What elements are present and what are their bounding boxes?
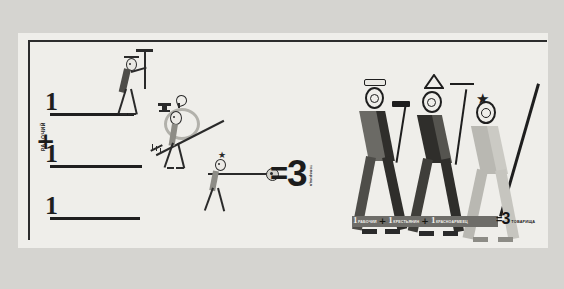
eq-term-soldier: 1 КРАСНОАРМЕЕЦ [430, 216, 469, 227]
soldier-eye [218, 163, 220, 165]
eq-separator-1: + [378, 217, 388, 226]
soldier-leg-back [217, 188, 226, 212]
peasant-eye [173, 116, 175, 118]
comrade-soldier-leg-right [495, 169, 519, 240]
scan-margin-left [0, 0, 18, 289]
rake-tine-2 [156, 146, 157, 151]
equation-result-number: 3 [501, 213, 510, 225]
peasant-foot-back [167, 167, 174, 169]
result-three-glyph: 3 [287, 159, 308, 189]
eq-separator-2: + [420, 217, 430, 226]
comrade-peasant-foot-left [419, 231, 434, 236]
hammer-head-icon [136, 49, 153, 52]
eq-term-soldier-number: 1 [431, 216, 436, 225]
comrade-worker-foot-left [362, 229, 377, 234]
soldier-head [215, 159, 226, 171]
comrade-soldier-eye [481, 108, 491, 118]
peasant-pointed-hat-icon [424, 75, 442, 88]
comrade-worker-hammer-handle-icon [395, 105, 406, 163]
eq-term-peasant: 1 КРЕСТЬЯНИН [387, 216, 420, 227]
equation-result-label: ТОВАРИЩА [511, 220, 535, 224]
comrade-peasant-eye [427, 98, 436, 107]
eq-term-worker-number: 1 [353, 216, 358, 225]
scan-margin-bottom [0, 248, 564, 289]
worker-foot-front [128, 113, 136, 115]
comrade-soldier-foot-right [498, 237, 513, 242]
equation-bar: 1 РАБОЧИЙ + 1 КРЕСТЬЯНИН + 1 КРАСНОАРМЕЕ… [352, 216, 498, 227]
eq-term-peasant-label: КРЕСТЬЯНИН [393, 221, 419, 225]
comrade-peasant-foot-right [443, 231, 458, 236]
soldier-leg-front [204, 188, 214, 211]
worker-eye [129, 63, 131, 65]
eq-term-worker-label: РАБОЧИЙ [358, 221, 377, 225]
eq-term-soldier-label: КРАСНОАРМЕЕЦ [436, 221, 468, 225]
peasant-foot-front [176, 167, 184, 169]
poster-root: РАБОЧИЙ 1 [0, 0, 564, 289]
equation-result-group: = 3 ТОВАРИЩА [496, 213, 535, 225]
frame-rule-left [28, 40, 30, 240]
rake-tine-1 [152, 144, 153, 149]
result-caption: товарища [309, 165, 314, 186]
eq-term-peasant-number: 1 [388, 216, 393, 225]
comrade-worker-hammer-head-icon [392, 101, 410, 107]
comrade-soldier-foot-left [473, 237, 488, 242]
comrade-soldier-leg-left [463, 169, 488, 240]
worker-flat-cap-icon [364, 79, 386, 86]
sickle-emblem-icon [174, 93, 188, 107]
comrade-worker-eye [370, 94, 379, 103]
equals-glyph: = [270, 159, 288, 188]
comrade-worker-foot-right [385, 229, 400, 234]
worker-leg-back [130, 89, 138, 115]
flat-cap-icon [124, 56, 139, 58]
center-equals-three: = 3 товарища [270, 159, 314, 189]
numeral-one-worker: 1 [45, 89, 58, 115]
scan-margin-top [0, 0, 564, 33]
eq-term-worker: 1 РАБОЧИЙ [352, 216, 378, 227]
peasant-leg-back [177, 143, 186, 169]
worker-foot-back [120, 113, 127, 115]
rake-tine-3 [160, 148, 161, 153]
frame-rule-top [28, 40, 547, 42]
baseline-bar-peasant [50, 165, 142, 168]
numeral-one-peasant: 1 [45, 141, 58, 167]
numeral-one-soldier: 1 [45, 193, 58, 219]
baseline-bar-soldier [50, 217, 140, 220]
